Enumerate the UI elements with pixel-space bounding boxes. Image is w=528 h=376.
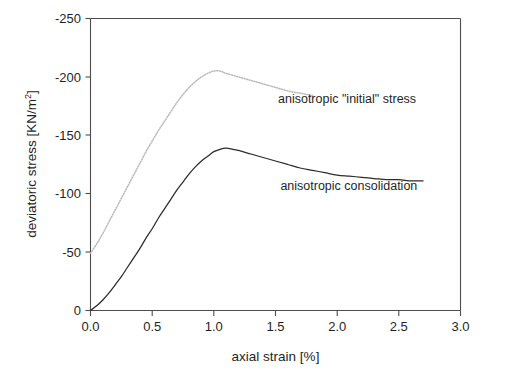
x-tick-label: 1.0 bbox=[205, 319, 223, 334]
x-tick-label: 3.0 bbox=[451, 319, 469, 334]
y-axis-title-main: deviatoric stress [KN/m bbox=[24, 99, 39, 238]
x-tick-label: 0.0 bbox=[81, 319, 99, 334]
y-tick-label: -200 bbox=[55, 70, 81, 85]
annotation-anisotropic-initial-stress: anisotropic "initial" stress bbox=[278, 92, 416, 106]
series-anisotropic-consolidation bbox=[91, 148, 424, 310]
annotation-anisotropic-consolidation: anisotropic consolidation bbox=[280, 179, 417, 193]
deviatoric-stress-vs-axial-strain-chart: -250 -200 -150 -100 -50 0 0.0 0.5 1.0 1.… bbox=[0, 0, 528, 376]
y-axis-title-tail: ] bbox=[24, 90, 39, 94]
y-tick-label: -50 bbox=[62, 245, 81, 260]
y-axis-tick-labels: -250 -200 -150 -100 -50 0 bbox=[55, 11, 81, 318]
y-tick-label: 0 bbox=[74, 303, 81, 318]
y-tick-label: -100 bbox=[55, 186, 81, 201]
x-tick-label: 2.0 bbox=[328, 319, 346, 334]
chart-figure: -250 -200 -150 -100 -50 0 0.0 0.5 1.0 1.… bbox=[0, 0, 528, 376]
y-axis-title: deviatoric stress [KN/m2] bbox=[23, 90, 39, 238]
x-tick-label: 1.5 bbox=[266, 319, 284, 334]
x-axis-tick-labels: 0.0 0.5 1.0 1.5 2.0 2.5 3.0 bbox=[81, 319, 469, 334]
y-tick-label: -250 bbox=[55, 11, 81, 26]
plot-frame bbox=[91, 19, 461, 311]
y-tick-label: -150 bbox=[55, 128, 81, 143]
x-axis-title: axial strain [%] bbox=[232, 349, 320, 364]
x-tick-label: 2.5 bbox=[390, 319, 408, 334]
svg-text:deviatoric stress [KN/m2]: deviatoric stress [KN/m2] bbox=[23, 90, 39, 238]
y-axis-ticks bbox=[86, 19, 91, 311]
x-tick-label: 0.5 bbox=[143, 319, 161, 334]
x-axis-ticks bbox=[91, 311, 461, 317]
curve-annotations: anisotropic "initial" stress anisotropic… bbox=[278, 92, 417, 194]
